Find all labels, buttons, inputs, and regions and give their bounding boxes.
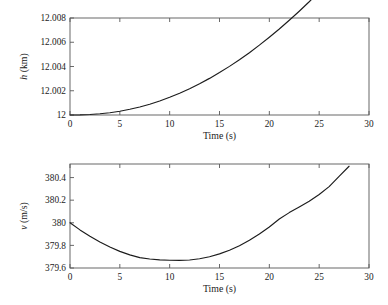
data-curve-velocity (70, 166, 349, 260)
x-ticklabel: 10 (165, 119, 175, 129)
x-ticklabel: 30 (364, 119, 374, 129)
x-ticklabel: 5 (118, 119, 123, 129)
x-ticklabel: 30 (364, 272, 374, 282)
y-ticklabel: 379.8 (45, 241, 66, 251)
y-axis-unit-altitude: (km) (18, 53, 30, 75)
x-ticklabel: 20 (265, 119, 275, 129)
y-ticklabel: 380.2 (45, 195, 66, 205)
y-axis-title-altitude: h (km) (18, 53, 30, 79)
chart-altitude-vs-time: 12 12.002 12.004 12.006 12.008 0 5 10 15… (18, 0, 374, 142)
plot-box-altitude (70, 18, 369, 115)
data-curve-altitude (70, 0, 349, 115)
figure-canvas: 12 12.002 12.004 12.006 12.008 0 5 10 15… (0, 0, 388, 305)
x-ticklabel: 10 (165, 272, 175, 282)
x-ticklabel: 0 (68, 119, 73, 129)
svg-text:v (m/s): v (m/s) (18, 202, 30, 230)
y-ticklabel: 12.004 (40, 62, 66, 72)
y-axis-unit-velocity: (m/s) (18, 202, 30, 225)
plot-box-velocity (70, 164, 369, 268)
chart-velocity-vs-time: 379.6 379.8 380 380.2 380.4 0 5 10 15 20… (18, 164, 374, 295)
y-ticklabels-altitude: 12 12.002 12.004 12.006 12.008 (40, 13, 66, 120)
x-axis-title-altitude: Time (s) (203, 130, 236, 142)
x-ticklabel: 25 (315, 119, 325, 129)
y-ticklabel: 12.006 (40, 37, 66, 47)
y-ticklabel: 12.008 (40, 13, 66, 23)
x-ticklabels-altitude: 0 5 10 15 20 25 30 (68, 119, 374, 129)
x-ticks-altitude (70, 18, 369, 115)
x-ticklabel: 15 (215, 272, 225, 282)
y-ticklabels-velocity: 379.6 379.8 380 380.2 380.4 (45, 173, 66, 273)
y-ticklabel: 379.6 (45, 263, 66, 273)
x-ticks-velocity (70, 164, 369, 268)
svg-text:h (km): h (km) (18, 53, 30, 79)
x-axis-title-velocity: Time (s) (203, 283, 236, 295)
x-ticklabel: 5 (118, 272, 123, 282)
x-ticklabels-velocity: 0 5 10 15 20 25 30 (68, 272, 374, 282)
y-ticks-altitude (70, 18, 74, 115)
y-axis-title-velocity: v (m/s) (18, 202, 30, 230)
x-ticklabel: 25 (315, 272, 325, 282)
y-ticklabel: 12.002 (40, 86, 66, 96)
y-ticklabel: 380 (52, 218, 66, 228)
x-ticklabel: 20 (265, 272, 275, 282)
x-ticklabel: 15 (215, 119, 225, 129)
y-ticklabel: 12 (57, 110, 67, 120)
y-ticklabel: 380.4 (45, 173, 66, 183)
x-ticklabel: 0 (68, 272, 73, 282)
